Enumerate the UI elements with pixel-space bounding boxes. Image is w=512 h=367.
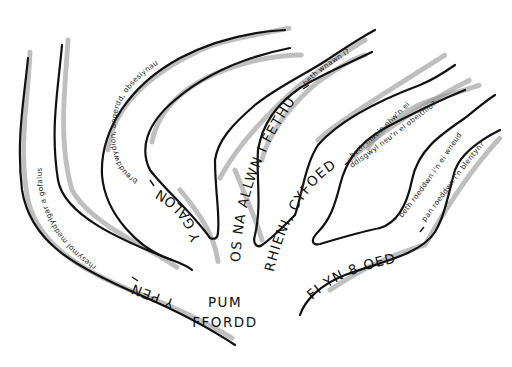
dash-galon xyxy=(150,180,154,186)
five-roads-diagram: Y PEN rhesymol meddylgar a gofalus Y GAL… xyxy=(0,0,512,367)
road-label-pen: Y PEN rhesymol meddylgar a gofalus xyxy=(35,167,178,312)
center-label: PUM FFORDD xyxy=(190,292,260,332)
road-label-oed: FI YN 8 OED beth roeddwn i'n ei wneud pa… xyxy=(303,130,486,302)
road-title-rhieni: RHIENI, CYFOEDION xyxy=(0,0,339,273)
center-label-line2: FFORDD xyxy=(190,312,260,332)
road-title-pen: Y PEN xyxy=(128,281,177,313)
dash-pen xyxy=(132,277,138,281)
road-title-oed: FI YN 8 OED xyxy=(303,250,397,302)
center-label-line1: PUM xyxy=(190,292,260,312)
dash-oed xyxy=(420,227,424,232)
svg-text:FI YN 8 OED: FI YN 8 OED xyxy=(303,250,397,302)
svg-text:Y PEN: Y PEN xyxy=(128,281,177,313)
svg-text:RHIENI, CYFOEDION: RHIENI, CYFOEDION xyxy=(0,0,339,273)
svg-text:Y GALON: Y GALON xyxy=(152,186,204,244)
road-title-galon: Y GALON xyxy=(152,186,204,244)
